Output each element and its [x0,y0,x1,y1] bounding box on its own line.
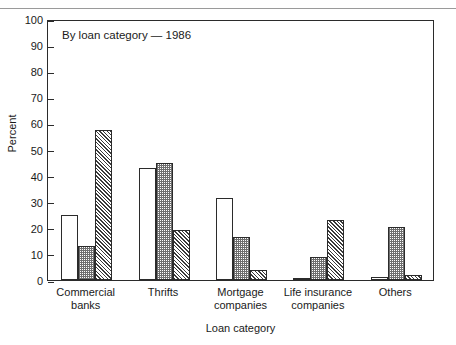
y-axis-tick [48,229,54,230]
y-axis-tick-label: 100 [9,15,43,26]
y-axis-tick-label: 20 [9,224,43,235]
y-axis-tick [48,203,54,204]
y-axis-tick [48,151,54,152]
bar [371,277,388,280]
y-axis-tick-label: 80 [9,67,43,78]
x-axis-category-label: Others [347,286,443,299]
y-axis-tick-label: 70 [9,93,43,104]
y-axis-tick-labels: 0102030405060708090100 [5,20,43,281]
bar [293,278,310,280]
header-rule [0,8,456,9]
figure: Percent 0102030405060708090100 By loan c… [0,0,456,345]
x-axis-category-label-line: banks [38,299,134,312]
bar [156,163,173,280]
bar [310,257,327,280]
plot-annotation: By loan category — 1986 [62,29,191,42]
y-axis-tick [48,125,54,126]
x-axis-category-label-line: Others [347,286,443,299]
bar [216,198,233,280]
bar [233,237,250,280]
y-axis-tick-label: 40 [9,172,43,183]
bar [95,130,112,280]
plot-inner: By loan category — 1986 [48,21,433,280]
bar [139,168,156,280]
y-axis-tick-label: 90 [9,41,43,52]
bar [388,227,405,280]
x-axis-category-labels: CommercialbanksThriftsMortgagecompaniesL… [47,286,434,318]
y-axis-tick-label: 30 [9,198,43,209]
x-axis-category-label-line: companies [270,299,366,312]
bar [327,220,344,280]
bar [61,215,78,280]
y-axis-tick-label: 10 [9,250,43,261]
y-axis-tick [48,282,54,283]
y-axis-tick [48,99,54,100]
y-axis-tick-label: 50 [9,146,43,157]
y-axis-tick-label: 60 [9,119,43,130]
y-axis-tick [48,73,54,74]
bar [250,270,267,280]
y-axis-tick [48,47,54,48]
plot-area: By loan category — 1986 [47,20,434,281]
bar [173,230,190,280]
bar [405,275,422,280]
y-axis-tick [48,177,54,178]
y-axis-tick [48,255,54,256]
y-axis-tick [48,21,54,22]
bar [78,246,95,280]
x-axis-title: Loan category [47,322,434,334]
